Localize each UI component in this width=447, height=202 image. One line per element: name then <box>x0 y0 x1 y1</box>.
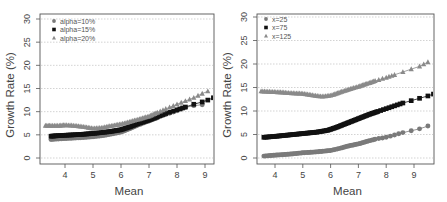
legend-label: alpha=15% <box>60 26 95 34</box>
circle-marker <box>409 128 414 133</box>
triangle-marker <box>52 36 56 40</box>
legend-item: alpha=20% <box>52 35 95 43</box>
circle-marker <box>264 17 268 21</box>
circle-marker <box>388 134 393 139</box>
triangle-marker <box>205 88 210 93</box>
legend-label: x=25 <box>272 16 287 23</box>
x-tick-label: 7 <box>356 170 361 180</box>
circle-marker <box>425 124 430 129</box>
triangle-marker <box>425 59 430 64</box>
square-marker <box>211 95 216 100</box>
series-alpha-15- <box>49 95 216 138</box>
legend-label: x=125 <box>272 33 291 40</box>
x-tick-label: 4 <box>62 170 67 180</box>
y-tick-label: 15 <box>239 82 249 92</box>
circle-marker <box>52 19 56 23</box>
x-tick-label: 6 <box>328 170 333 180</box>
y-axis-title: Growth Rate (%) <box>221 52 233 138</box>
series-line <box>264 94 434 137</box>
legend-item: x=75 <box>264 24 287 31</box>
x-tick-label: 7 <box>146 170 151 180</box>
square-marker <box>264 26 268 30</box>
x-tick-label: 6 <box>118 170 123 180</box>
y-tick-label: 0 <box>239 155 249 160</box>
square-marker <box>200 100 205 105</box>
y-tick-label: 0 <box>22 155 32 160</box>
x-tick-label: 5 <box>300 170 305 180</box>
legend-item: alpha=15% <box>52 26 95 34</box>
legend-label: x=75 <box>272 24 287 31</box>
legend-label: alpha=10% <box>60 18 95 26</box>
square-marker <box>417 96 422 101</box>
square-marker <box>401 101 406 106</box>
legend: x=25x=75x=125 <box>264 16 291 40</box>
y-tick-label: 25 <box>22 37 32 47</box>
y-tick-label: 20 <box>22 60 32 70</box>
circle-marker <box>392 133 397 138</box>
series-x-25 <box>261 124 430 159</box>
x-tick-label: 4 <box>272 170 277 180</box>
legend-item: alpha=10% <box>52 18 95 26</box>
square-marker <box>426 94 431 99</box>
x-axis-title: Mean <box>115 185 144 197</box>
chart-canvas: 051015202530456789MeanGrowth Rate (%)alp… <box>0 0 447 202</box>
circle-marker <box>396 131 401 136</box>
y-tick-label: 10 <box>22 107 32 117</box>
circle-marker <box>400 130 405 135</box>
x-axis-title: Mean <box>333 185 362 197</box>
y-tick-label: 5 <box>22 132 32 137</box>
y-tick-label: 20 <box>239 59 249 69</box>
x-tick-label: 9 <box>411 170 416 180</box>
square-marker <box>52 28 56 32</box>
legend-item: x=125 <box>264 33 291 40</box>
panel-right: 051015202530456789MeanGrowth Rate (%)x=2… <box>221 12 436 197</box>
square-marker <box>183 105 188 110</box>
y-axis-title: Growth Rate (%) <box>4 52 16 138</box>
y-tick-label: 15 <box>22 83 32 93</box>
circle-marker <box>417 126 422 131</box>
square-marker <box>409 98 414 103</box>
square-marker <box>191 102 196 107</box>
panel-left: 051015202530456789MeanGrowth Rate (%)alp… <box>4 14 216 197</box>
y-tick-label: 30 <box>239 12 249 22</box>
legend-item: x=25 <box>264 16 287 23</box>
y-tick-label: 25 <box>239 35 249 45</box>
x-tick-label: 5 <box>90 170 95 180</box>
square-marker <box>431 92 436 97</box>
y-tick-label: 30 <box>22 14 32 24</box>
circle-marker <box>384 135 389 140</box>
x-tick-label: 8 <box>384 170 389 180</box>
triangle-marker <box>264 34 268 38</box>
legend: alpha=10%alpha=15%alpha=20% <box>52 18 95 43</box>
y-tick-label: 5 <box>239 132 249 137</box>
x-tick-label: 8 <box>174 170 179 180</box>
legend-label: alpha=20% <box>60 35 95 43</box>
figure: 051015202530456789MeanGrowth Rate (%)alp… <box>0 0 447 202</box>
series-x-125 <box>259 59 431 98</box>
series-line <box>51 98 213 136</box>
y-tick-label: 10 <box>239 106 249 116</box>
square-marker <box>205 98 210 103</box>
x-tick-label: 9 <box>202 170 207 180</box>
